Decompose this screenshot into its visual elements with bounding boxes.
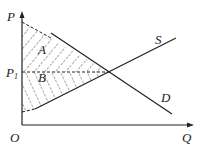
origin-label: O xyxy=(10,130,20,145)
diagram-canvas: P P1 A B S D O Q xyxy=(0,0,202,147)
x-axis-arrow-icon xyxy=(187,123,194,128)
y-axis-label: P xyxy=(6,9,15,24)
p1-label: P1 xyxy=(5,65,18,81)
y-axis-arrow-icon xyxy=(20,11,25,18)
supply-demand-diagram: P P1 A B S D O Q xyxy=(0,0,202,147)
region-b-label: B xyxy=(38,70,46,85)
supply-label: S xyxy=(155,32,162,47)
x-axis-label: Q xyxy=(182,130,192,145)
region-a-label: A xyxy=(37,42,46,57)
demand-label: D xyxy=(160,90,171,105)
